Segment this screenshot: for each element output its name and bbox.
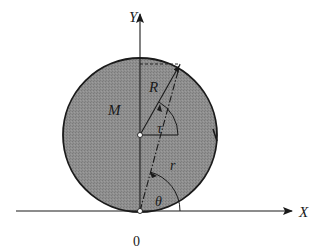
mass-label: M — [107, 102, 122, 118]
x-axis-label: X — [298, 204, 309, 220]
theta-label: θ — [155, 194, 162, 209]
r-label: r — [170, 158, 176, 173]
contact-point — [138, 209, 143, 214]
rolling-disk-diagram: Y X 0 M R τ r θ — [0, 0, 324, 250]
radius-label: R — [148, 79, 158, 95]
center-point — [138, 133, 143, 138]
origin-label: 0 — [133, 234, 140, 249]
y-axis-label: Y — [129, 9, 139, 25]
